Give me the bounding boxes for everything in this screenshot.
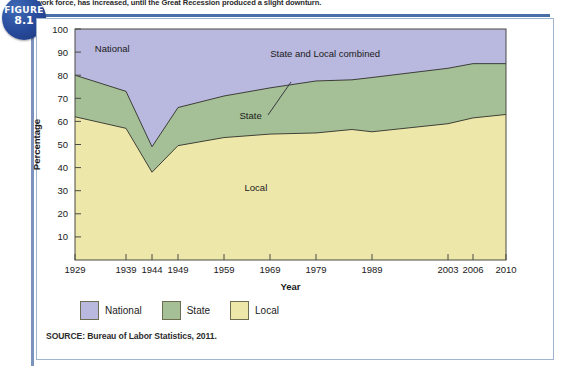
chart-series-areas <box>75 29 506 260</box>
y-tick-label: 20 <box>57 208 68 219</box>
annotation-label: State and Local combined <box>270 48 380 59</box>
x-tick-label: 1989 <box>361 264 382 275</box>
y-tick-label: 10 <box>57 231 68 242</box>
legend-swatch-national <box>80 301 99 320</box>
legend-item-state: State <box>162 301 210 320</box>
annotation-label: State <box>239 110 261 121</box>
y-tick-label: 60 <box>57 116 68 127</box>
chart-legend: NationalStateLocal <box>80 301 293 320</box>
legend-swatch-state <box>162 301 181 320</box>
legend-swatch-local <box>230 301 249 320</box>
x-tick-label: 1959 <box>213 264 234 275</box>
x-tick-label: 1929 <box>64 264 85 275</box>
y-tick-label: 90 <box>57 47 68 58</box>
legend-item-local: Local <box>230 301 279 320</box>
x-tick-label: 1969 <box>259 264 280 275</box>
legend-label: Local <box>255 305 279 316</box>
x-tick-label: 2006 <box>462 264 483 275</box>
y-tick-label: 70 <box>57 93 68 104</box>
annotation-label: Local <box>245 182 268 193</box>
source-note: SOURCE: Bureau of Labor Statistics, 2011… <box>46 331 217 341</box>
legend-item-national: National <box>80 301 142 320</box>
x-tick-label: 1979 <box>305 264 326 275</box>
legend-label: State <box>187 305 210 316</box>
x-tick-label: 1949 <box>167 264 188 275</box>
y-tick-label: 50 <box>57 139 68 150</box>
y-tick-label: 80 <box>57 70 68 81</box>
x-tick-label: 1939 <box>115 264 136 275</box>
y-tick-label: 40 <box>57 162 68 173</box>
x-tick-label: 1944 <box>141 264 162 275</box>
annotation-label: National <box>95 43 130 54</box>
x-axis-title: Year <box>280 281 300 292</box>
y-tick-label: 100 <box>52 24 68 35</box>
y-tick-label: 30 <box>57 185 68 196</box>
y-axis-title: Percentage <box>31 119 42 170</box>
x-tick-label: 2003 <box>437 264 458 275</box>
x-tick-label: 2010 <box>495 264 516 275</box>
legend-label: National <box>105 305 142 316</box>
